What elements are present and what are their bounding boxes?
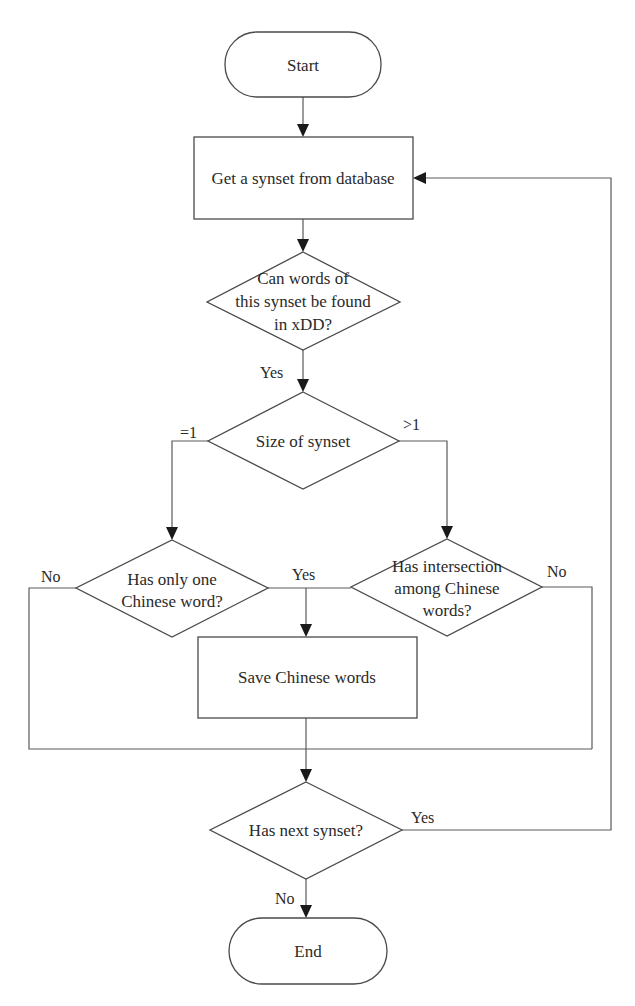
label-intersection-no: No: [547, 563, 567, 580]
node-has-next: Has next synset?: [210, 782, 402, 879]
node-intersection-line1: Has intersection: [392, 557, 502, 576]
label-only-one-no: No: [41, 568, 61, 585]
arrow-icon: [297, 124, 309, 137]
flowchart-canvas: Start Get a synset from database Can wor…: [0, 0, 635, 1006]
node-has-next-label: Has next synset?: [249, 821, 363, 840]
arrow-icon: [297, 379, 309, 392]
arrow-icon: [297, 239, 309, 252]
arrow-icon: [300, 624, 312, 637]
node-intersection: Has intersection among Chinese words?: [351, 539, 542, 636]
node-get-synset-label: Get a synset from database: [211, 169, 394, 188]
edge-size-gt1: [399, 441, 447, 530]
node-intersection-line2: among Chinese: [394, 579, 499, 598]
node-save: Save Chinese words: [198, 637, 417, 718]
node-get-synset: Get a synset from database: [194, 137, 413, 219]
arrow-icon: [166, 527, 178, 540]
label-only-one-yes: Yes: [292, 566, 315, 583]
label-has-next-no: No: [275, 890, 295, 907]
node-only-one-line2: Chinese word?: [121, 592, 223, 611]
arrow-icon: [300, 769, 312, 782]
node-size-label: Size of synset: [256, 432, 351, 451]
node-start-label: Start: [287, 56, 319, 75]
edge-intersection-no: [542, 587, 592, 749]
node-save-label: Save Chinese words: [238, 668, 376, 687]
label-has-next-yes: Yes: [411, 809, 434, 826]
label-size-gt1: >1: [403, 416, 420, 433]
node-can-find: Can words of this synset be found in xDD…: [207, 252, 400, 350]
node-can-find-line2: this synset be found: [235, 292, 371, 311]
node-size: Size of synset: [208, 392, 399, 489]
node-end-label: End: [294, 942, 322, 961]
edge-size-eq1: [172, 441, 208, 531]
node-intersection-line3: words?: [422, 601, 471, 620]
arrow-icon: [441, 526, 453, 539]
arrow-icon: [300, 905, 312, 918]
node-start: Start: [225, 32, 381, 97]
label-size-eq1: =1: [180, 424, 197, 441]
edge-next-yes-loop: [402, 178, 611, 830]
node-only-one: Has only one Chinese word?: [76, 540, 268, 637]
node-can-find-line1: Can words of: [257, 269, 349, 288]
node-end: End: [229, 918, 387, 984]
node-only-one-line1: Has only one: [127, 570, 217, 589]
arrow-icon: [413, 172, 426, 184]
label-can-find-yes: Yes: [260, 364, 283, 381]
node-can-find-line3: in xDD?: [274, 315, 332, 334]
